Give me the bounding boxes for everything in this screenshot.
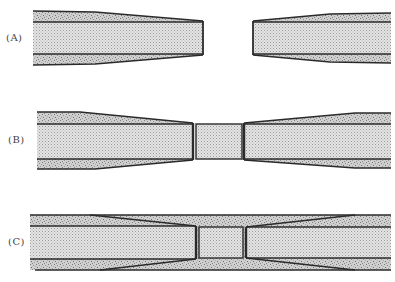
center-core (199, 227, 243, 258)
core (37, 124, 193, 159)
core (33, 22, 203, 54)
panel-a-left-fiber (33, 11, 203, 65)
panel-a-right-fiber (253, 13, 391, 63)
panel-label-b: (B) (8, 134, 25, 145)
panel-a (33, 11, 391, 65)
panel-label-a: (A) (6, 32, 23, 43)
right-core (246, 227, 391, 258)
panel-b (37, 112, 391, 169)
core (196, 124, 242, 159)
cladding-top (37, 112, 193, 124)
core (253, 22, 391, 54)
cladding-bottom (244, 159, 391, 168)
core (244, 124, 391, 159)
panel-c (30, 215, 391, 270)
panel-b-left-fiber (37, 112, 193, 169)
panel-label-c: (C) (8, 236, 25, 247)
panel-b-right-fiber (244, 113, 391, 168)
panel-b-center-segment (196, 124, 242, 159)
diagram-canvas (0, 0, 395, 282)
left-core (30, 226, 196, 259)
cladding-top (33, 11, 203, 22)
cladding-bottom (33, 54, 203, 65)
cladding-top (244, 113, 391, 124)
